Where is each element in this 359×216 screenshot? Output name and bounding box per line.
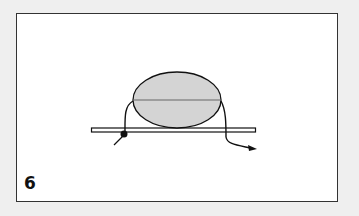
stitch-diagram bbox=[0, 0, 359, 216]
step-number: 6 bbox=[24, 175, 36, 192]
thread-right bbox=[221, 101, 250, 148]
fabric-strip bbox=[92, 128, 256, 132]
thread-tail bbox=[114, 136, 123, 145]
knot-icon bbox=[121, 131, 128, 138]
arrow-icon bbox=[248, 145, 257, 151]
